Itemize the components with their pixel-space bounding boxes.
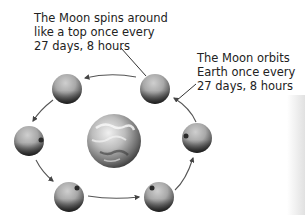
arrow-upper-right: [174, 98, 196, 122]
arrow-lower-right: [175, 158, 193, 190]
moon-bottom-left-icon: [54, 182, 84, 212]
moon-right-icon: [182, 123, 212, 153]
orbit-pointer-line: [176, 84, 196, 101]
earth-icon: [87, 114, 141, 168]
moon-top-right-icon: [140, 74, 170, 104]
arrow-upper-left: [33, 100, 53, 121]
arrow-lower-left: [36, 160, 53, 181]
orbit-diagram: [0, 0, 305, 221]
spin-pointer-line: [121, 48, 146, 76]
moon-left-icon: [14, 126, 44, 156]
moon-top-left-icon: [52, 74, 82, 104]
arrow-top: [85, 75, 136, 78]
moon-bottom-right-icon: [144, 182, 174, 212]
arrow-bottom: [88, 196, 139, 198]
